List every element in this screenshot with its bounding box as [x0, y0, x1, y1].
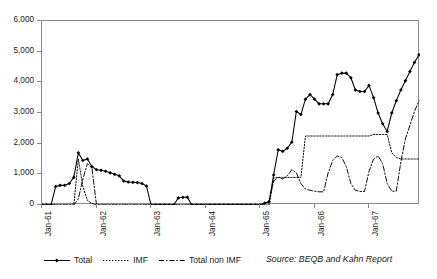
legend-swatch-solid — [44, 256, 70, 265]
x-axis-tick-mark — [259, 204, 260, 208]
legend-swatch-dotted — [103, 256, 129, 265]
legend-label: Total non IMF — [189, 256, 241, 265]
data-point-marker — [131, 180, 135, 184]
data-point-marker — [322, 102, 326, 106]
data-point-marker — [63, 184, 67, 188]
data-point-marker — [354, 88, 358, 92]
series-line-total — [42, 55, 419, 205]
data-point-marker — [113, 172, 117, 176]
y-axis-tick-label: 1,000 — [14, 169, 35, 177]
data-point-marker — [276, 148, 280, 152]
x-axis-tick-label: Jan-62 — [100, 211, 108, 236]
data-point-marker — [108, 171, 112, 175]
data-point-marker — [390, 111, 394, 115]
x-axis-tick-label: Jan-64 — [209, 211, 217, 236]
data-point-marker — [99, 169, 103, 173]
data-point-marker — [335, 73, 339, 77]
x-axis-tick-label: Jan-67 — [372, 211, 380, 236]
x-axis-tick-mark — [41, 204, 42, 208]
y-axis-tick-label: 6,000 — [14, 16, 35, 24]
legend-swatch-dash-dot — [159, 256, 185, 265]
data-point-marker — [104, 169, 108, 173]
legend-label: Total — [74, 256, 92, 265]
data-point-marker — [326, 102, 330, 106]
data-point-marker — [331, 93, 335, 97]
y-axis-tick-label: 5,000 — [14, 47, 35, 55]
data-point-marker — [136, 181, 140, 185]
data-point-marker — [408, 70, 412, 74]
data-point-marker — [358, 90, 362, 94]
chart-legend: TotalIMFTotal non IMF — [44, 252, 241, 268]
source-note: Source: BEQB and Kahn Report — [266, 254, 392, 264]
x-axis-tick-mark — [314, 204, 315, 208]
legend-marker-diamond — [55, 258, 59, 262]
x-axis-tick-label: Jan-63 — [154, 211, 162, 236]
series-line-total-non-imf — [42, 101, 419, 205]
data-point-marker — [417, 53, 420, 57]
legend-label: IMF — [133, 256, 148, 265]
data-point-marker — [181, 195, 185, 199]
y-axis-tick-label: 0 — [29, 200, 34, 208]
plot-area — [41, 20, 419, 204]
x-axis-tick-label: Jan-65 — [263, 211, 271, 236]
data-point-marker — [272, 173, 276, 177]
data-point-marker — [404, 79, 408, 83]
y-axis-tick-label: 2,000 — [14, 139, 35, 147]
chart-plot-svg — [42, 21, 420, 205]
x-axis-tick-mark — [368, 204, 369, 208]
y-axis-tick-label: 3,000 — [14, 108, 35, 116]
x-axis-tick-mark — [205, 204, 206, 208]
data-point-marker — [394, 99, 398, 103]
series-markers-total — [42, 53, 420, 205]
x-axis-tick-mark — [150, 204, 151, 208]
legend-item-total[interactable]: Total — [44, 256, 92, 265]
chart-container: 01,0002,0003,0004,0005,0006,000 Jan-61Ja… — [0, 0, 437, 279]
y-axis: 01,0002,0003,0004,0005,0006,000 — [0, 0, 41, 210]
data-point-marker — [54, 185, 58, 189]
x-axis-tick-label: Jan-66 — [318, 211, 326, 236]
y-axis-tick-label: 4,000 — [14, 77, 35, 85]
data-point-marker — [58, 184, 62, 188]
x-axis-tick-mark — [96, 204, 97, 208]
legend-item-imf[interactable]: IMF — [103, 256, 148, 265]
data-point-marker — [126, 180, 130, 184]
data-point-marker — [399, 88, 403, 92]
legend-item-total-non-imf[interactable]: Total non IMF — [159, 256, 241, 265]
x-axis-tick-label: Jan-61 — [45, 211, 53, 236]
data-point-marker — [340, 71, 344, 75]
data-point-marker — [376, 111, 380, 115]
data-point-marker — [372, 96, 376, 100]
